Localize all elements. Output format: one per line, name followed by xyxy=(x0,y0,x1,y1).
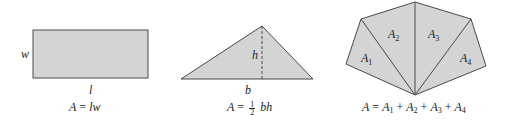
polygon-formula: A = A1 + A2 + A3 + A4 xyxy=(362,100,466,118)
fraction-half: 12 xyxy=(249,101,255,116)
region-a3-label: A3 xyxy=(428,28,439,45)
formula-eq: = xyxy=(372,100,379,114)
region-a2-label: A2 xyxy=(388,28,399,45)
rect-formula: A = lw xyxy=(69,100,100,114)
term-a4-sub: 4 xyxy=(462,106,466,115)
rect-width-label: w xyxy=(21,48,29,60)
plus-sign: + xyxy=(396,100,403,114)
region-a1-label: A1 xyxy=(361,52,372,69)
term-a3-sub: 3 xyxy=(438,106,442,115)
formula-lhs: A xyxy=(227,100,234,114)
formula-eq: = xyxy=(237,100,244,114)
plus-sign: + xyxy=(421,100,428,114)
rect-length-label: l xyxy=(89,84,92,96)
term-a2-sub: 2 xyxy=(414,106,418,115)
formula-rhs: bh xyxy=(260,100,272,114)
polygon-shape xyxy=(346,2,486,95)
triangle-formula: A = 12 bh xyxy=(227,100,272,116)
triangle-height-label: h xyxy=(252,49,258,61)
fraction-denominator: 2 xyxy=(249,109,255,116)
term-a4: A xyxy=(455,100,462,114)
term-a3: A xyxy=(430,100,437,114)
formula-lhs: A xyxy=(69,100,76,114)
triangle-shape xyxy=(181,26,313,79)
formula-lhs: A xyxy=(362,100,369,114)
formula-eq: = xyxy=(79,100,86,114)
term-a1-sub: 1 xyxy=(389,106,393,115)
triangle-base-label: b xyxy=(245,84,251,96)
formula-rhs: lw xyxy=(89,100,100,114)
plus-sign: + xyxy=(445,100,452,114)
term-a2: A xyxy=(406,100,413,114)
region-a4-label: A4 xyxy=(460,52,471,69)
rectangle-shape xyxy=(33,30,148,78)
